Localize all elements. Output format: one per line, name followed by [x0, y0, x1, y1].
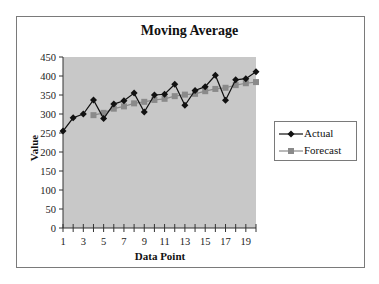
legend-label-actual: Actual: [304, 127, 333, 139]
legend: Actual Forecast: [274, 121, 357, 161]
data-point: [223, 85, 229, 91]
legend-label-forecast: Forecast: [304, 144, 341, 156]
data-point: [121, 103, 127, 109]
data-point: [172, 93, 178, 99]
data-point: [131, 100, 137, 106]
y-tick-label: 250: [40, 128, 56, 139]
x-tick-label: 13: [180, 236, 191, 247]
y-tick-label: 0: [51, 223, 56, 234]
y-axis: 050100150200250300350400450: [40, 52, 63, 234]
y-tick-label: 450: [40, 52, 56, 63]
x-axis-label: Data Point: [0, 250, 320, 262]
forecast-marker-icon: [279, 144, 307, 158]
x-tick-label: 17: [220, 236, 231, 247]
x-tick-label: 5: [101, 236, 106, 247]
legend-item-actual: Actual: [275, 127, 358, 141]
x-tick-label: 1: [60, 236, 65, 247]
data-point: [141, 99, 147, 105]
actual-marker-icon: [279, 127, 307, 141]
data-point: [182, 92, 188, 98]
y-tick-label: 100: [40, 185, 56, 196]
x-tick-label: 7: [121, 236, 126, 247]
y-tick-label: 200: [40, 147, 56, 158]
y-tick-label: 50: [46, 204, 57, 215]
x-tick-label: 3: [81, 236, 86, 247]
x-tick-label: 19: [241, 236, 252, 247]
y-tick-label: 150: [40, 166, 56, 177]
data-point: [212, 86, 218, 92]
x-tick-label: 9: [142, 236, 147, 247]
y-tick-label: 400: [40, 71, 56, 82]
legend-item-forecast: Forecast: [275, 144, 358, 158]
y-tick-label: 350: [40, 90, 56, 101]
x-tick-label: 11: [160, 236, 170, 247]
y-tick-label: 300: [40, 109, 56, 120]
y-axis-label: Value: [28, 128, 40, 168]
plot-area: [63, 57, 256, 228]
x-tick-label: 15: [200, 236, 211, 247]
data-point: [253, 79, 259, 85]
data-point: [90, 112, 96, 118]
